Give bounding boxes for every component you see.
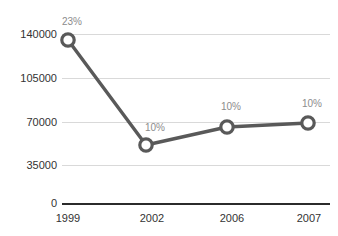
data-point-2007[interactable] — [302, 117, 314, 129]
y-tick-label-140000: 140000 — [20, 28, 57, 40]
gridlines — [62, 35, 330, 166]
chart-canvas: 140000 105000 70000 35000 0 23% 10% 10% … — [0, 0, 338, 236]
y-axis-ticks: 140000 105000 70000 35000 0 — [20, 28, 57, 209]
data-markers — [62, 34, 314, 151]
data-label-2002: 10% — [145, 122, 165, 133]
data-point-2002[interactable] — [140, 139, 152, 151]
y-tick-label-105000: 105000 — [20, 72, 57, 84]
data-point-2006[interactable] — [221, 121, 233, 133]
x-tick-label-1999: 1999 — [56, 212, 80, 224]
data-label-2006: 10% — [221, 101, 241, 112]
series-line — [68, 40, 308, 145]
x-tick-label-2002: 2002 — [140, 212, 164, 224]
y-tick-label-0: 0 — [51, 197, 57, 209]
y-tick-label-70000: 70000 — [26, 116, 57, 128]
x-tick-label-2006: 2006 — [220, 212, 244, 224]
x-axis-ticks: 1999 2002 2006 2007 — [56, 212, 321, 224]
data-point-1999[interactable] — [62, 34, 74, 46]
data-label-1999: 23% — [62, 16, 82, 27]
data-label-2007: 10% — [302, 98, 322, 109]
line-chart: 140000 105000 70000 35000 0 23% 10% 10% … — [0, 0, 338, 236]
data-point-labels: 23% 10% 10% 10% — [62, 16, 322, 133]
y-tick-label-35000: 35000 — [26, 159, 57, 171]
x-tick-label-2007: 2007 — [297, 212, 321, 224]
